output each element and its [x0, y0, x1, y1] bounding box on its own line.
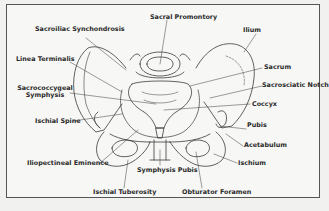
label-symphysis-line2: Symphysis: [16, 92, 74, 99]
label-obturator-foramen: Obturator Foramen: [182, 189, 251, 196]
label-sacrosciatic-notch: Sacrosciatic Notch: [262, 82, 329, 89]
coccyx-shape: [156, 128, 164, 138]
sacrum-shape: [128, 81, 191, 128]
left-ilium-shape: [74, 47, 126, 132]
label-sacral-promontory: Sacral Promontory: [150, 14, 217, 21]
label-sacroiliac-synchondrosis: Sacroiliac Synchondrosis: [35, 26, 125, 33]
label-iliopectineal-eminence: Iliopectineal Eminence: [27, 160, 108, 167]
label-sacrum: Sacrum: [264, 64, 291, 71]
label-sacrococcygeal-symphysis: Sacrococcygeal Symphysis: [16, 85, 74, 99]
right-ilium-shape: [196, 44, 254, 128]
label-ischial-spine: Ischial Spine: [35, 118, 81, 125]
label-coccyx: Coccyx: [252, 101, 277, 108]
label-ischium: Ischium: [238, 160, 266, 167]
label-ilium: Ilium: [243, 27, 261, 34]
label-acetabulum: Acetabulum: [244, 142, 287, 149]
label-symphysis-pubis: Symphysis Pubis: [137, 167, 198, 174]
label-ischial-tuberosity: Ischial Tuberosity: [93, 189, 156, 196]
label-pubis: Pubis: [247, 122, 267, 129]
label-linea-terminalis: Linea Terminalis: [16, 56, 75, 63]
